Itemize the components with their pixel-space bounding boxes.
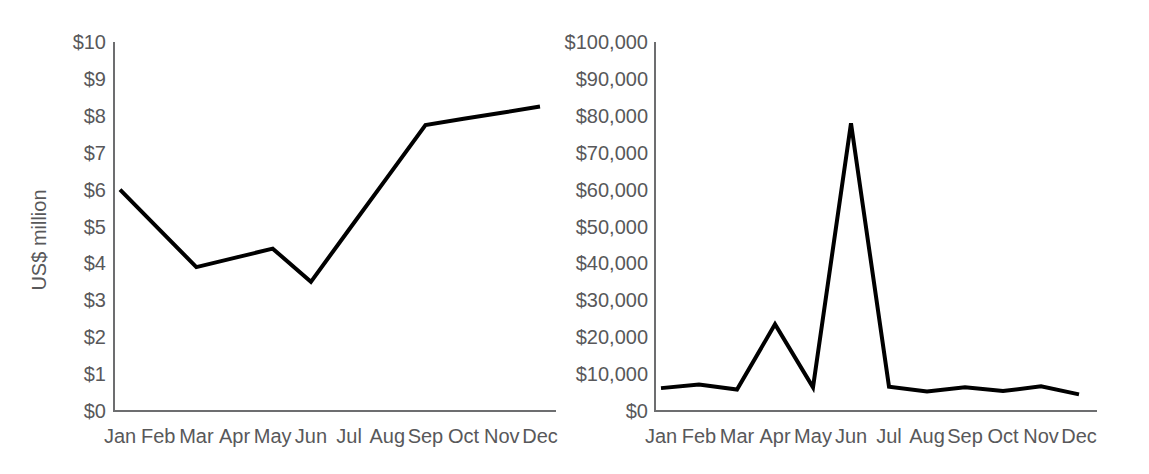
right-y-tick-label: $70,000 bbox=[576, 142, 648, 164]
left-x-category-label: Aug bbox=[369, 425, 405, 447]
left-x-category-label: Jan bbox=[104, 425, 136, 447]
right-x-category-label: Apr bbox=[759, 425, 790, 447]
left-x-category-label: Sep bbox=[408, 425, 444, 447]
right-x-category-label: Feb bbox=[682, 425, 716, 447]
chart-left-svg: $10$9$8$7$6$5$4$3$2$1$0 JanFebMarAprMayJ… bbox=[0, 0, 575, 474]
left-x-category-label: Feb bbox=[141, 425, 175, 447]
chart-left-panel: $10$9$8$7$6$5$4$3$2$1$0 JanFebMarAprMayJ… bbox=[0, 0, 575, 474]
left-y-tick-label: $7 bbox=[84, 142, 106, 164]
right-x-category-label: Jul bbox=[876, 425, 902, 447]
right-x-category-label: Aug bbox=[909, 425, 945, 447]
left-y-tick-label: $2 bbox=[84, 326, 106, 348]
left-x-category-label: Jul bbox=[336, 425, 362, 447]
right-y-tick-label: $0 bbox=[626, 400, 648, 422]
right-y-tick-label: $10,000 bbox=[576, 363, 648, 385]
left-x-category-label: Apr bbox=[219, 425, 250, 447]
left-x-category-label: Jun bbox=[295, 425, 327, 447]
left-y-axis-title: US$ million bbox=[28, 189, 50, 290]
right-x-axis-category-labels: JanFebMarAprMayJunJulAugSepOctNovDec bbox=[645, 425, 1097, 447]
left-y-tick-label: $0 bbox=[84, 400, 106, 422]
chart-right-svg: $100,000$90,000$80,000$70,000$60,000$50,… bbox=[560, 0, 1149, 474]
left-y-tick-label: $9 bbox=[84, 68, 106, 90]
right-y-tick-label: $60,000 bbox=[576, 179, 648, 201]
left-y-tick-label: $4 bbox=[84, 252, 106, 274]
right-y-tick-label: $90,000 bbox=[576, 68, 648, 90]
right-x-category-label: Dec bbox=[1061, 425, 1097, 447]
left-x-category-label: Oct bbox=[448, 425, 480, 447]
right-x-category-label: May bbox=[794, 425, 832, 447]
right-y-tick-label: $100,000 bbox=[565, 31, 648, 53]
right-y-axis-tick-labels: $100,000$90,000$80,000$70,000$60,000$50,… bbox=[565, 31, 648, 422]
right-x-category-label: Nov bbox=[1023, 425, 1059, 447]
right-x-category-label: Sep bbox=[947, 425, 983, 447]
right-y-tick-label: $30,000 bbox=[576, 289, 648, 311]
right-y-tick-label: $50,000 bbox=[576, 216, 648, 238]
left-x-category-label: Mar bbox=[179, 425, 214, 447]
right-y-tick-label: $40,000 bbox=[576, 252, 648, 274]
right-y-tick-label: $80,000 bbox=[576, 105, 648, 127]
left-axis-lines bbox=[114, 42, 556, 411]
right-x-category-label: Mar bbox=[720, 425, 755, 447]
left-y-tick-label: $3 bbox=[84, 289, 106, 311]
right-y-tick-label: $20,000 bbox=[576, 326, 648, 348]
left-x-category-label: May bbox=[254, 425, 292, 447]
left-y-tick-label: $10 bbox=[73, 31, 106, 53]
left-x-category-label: Nov bbox=[484, 425, 520, 447]
left-x-axis-category-labels: JanFebMarAprMayJunJulAugSepOctNovDec bbox=[104, 425, 558, 447]
left-y-tick-label: $8 bbox=[84, 105, 106, 127]
chart-right-panel: $100,000$90,000$80,000$70,000$60,000$50,… bbox=[560, 0, 1149, 474]
left-x-category-label: Dec bbox=[522, 425, 558, 447]
left-y-tick-label: $5 bbox=[84, 216, 106, 238]
left-y-axis-tick-labels: $10$9$8$7$6$5$4$3$2$1$0 bbox=[73, 31, 106, 422]
right-axis-lines bbox=[655, 42, 1097, 411]
right-x-category-label: Jun bbox=[835, 425, 867, 447]
left-series-line bbox=[120, 107, 540, 282]
figure-root: $10$9$8$7$6$5$4$3$2$1$0 JanFebMarAprMayJ… bbox=[0, 0, 1149, 474]
right-series-line bbox=[661, 123, 1079, 394]
right-x-category-label: Oct bbox=[987, 425, 1019, 447]
left-y-tick-label: $1 bbox=[84, 363, 106, 385]
left-y-tick-label: $6 bbox=[84, 179, 106, 201]
right-x-category-label: Jan bbox=[645, 425, 677, 447]
